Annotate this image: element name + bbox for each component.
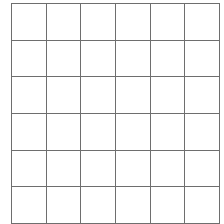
grid-cell[interactable] [185,77,220,114]
grid-cell[interactable] [116,187,151,224]
grid-cell[interactable] [150,40,185,77]
grid-cell[interactable] [150,4,185,41]
grid-cell[interactable] [185,114,220,151]
grid-cell[interactable] [81,187,116,224]
grid-row [12,77,220,114]
grid-cell[interactable] [185,150,220,187]
grid-row [12,150,220,187]
grid-cell[interactable] [116,150,151,187]
grid-cell[interactable] [185,187,220,224]
grid-cell[interactable] [185,4,220,41]
grid-cell[interactable] [81,40,116,77]
grid-cell[interactable] [150,187,185,224]
grid-cell[interactable] [81,4,116,41]
grid-cell[interactable] [150,77,185,114]
grid-cell[interactable] [116,77,151,114]
grid-cell[interactable] [12,150,47,187]
grid-cell[interactable] [185,40,220,77]
grid-cell[interactable] [116,114,151,151]
grid-cell[interactable] [12,114,47,151]
grid-row [12,40,220,77]
grid-body [12,4,220,224]
grid-cell[interactable] [81,114,116,151]
grid-cell[interactable] [150,114,185,151]
grid-row [12,114,220,151]
blank-square-grid[interactable] [11,3,220,224]
grid-cell[interactable] [12,77,47,114]
grid-cell[interactable] [46,114,81,151]
grid-cell[interactable] [46,4,81,41]
grid-cell[interactable] [46,187,81,224]
grid-row [12,4,220,41]
grid-cell[interactable] [46,150,81,187]
grid-cell[interactable] [116,4,151,41]
grid-cell[interactable] [81,150,116,187]
grid-cell[interactable] [46,40,81,77]
grid-cell[interactable] [12,187,47,224]
grid-cell[interactable] [150,150,185,187]
grid-cell[interactable] [46,77,81,114]
grid-cell[interactable] [81,77,116,114]
grid-cell[interactable] [12,40,47,77]
grid-row [12,187,220,224]
grid-cell[interactable] [116,40,151,77]
grid-canvas [0,0,224,224]
grid-cell[interactable] [12,4,47,41]
